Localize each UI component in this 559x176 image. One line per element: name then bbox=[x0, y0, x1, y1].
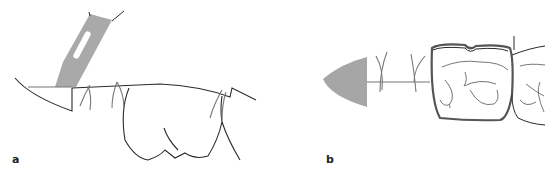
figure-canvas bbox=[0, 0, 559, 176]
panel-label-b: b bbox=[326, 153, 334, 166]
panel-label-a: a bbox=[12, 153, 19, 166]
suture-icon bbox=[376, 52, 425, 92]
panel-a-drawing bbox=[15, 11, 256, 160]
suture-icon bbox=[80, 82, 226, 120]
panel-b-drawing bbox=[323, 36, 545, 125]
scalpel-blade-icon bbox=[55, 11, 124, 87]
tissue-wedge-icon bbox=[323, 57, 367, 107]
